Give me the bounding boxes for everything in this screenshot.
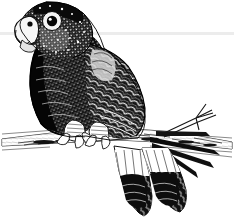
parrot-engraving-svg [0, 0, 234, 221]
eye-highlight [49, 18, 52, 21]
beak-nostril [27, 21, 32, 26]
beak-upper [15, 16, 39, 45]
illustration-canvas: Parrot on branch [0, 0, 234, 221]
eye [47, 16, 57, 26]
